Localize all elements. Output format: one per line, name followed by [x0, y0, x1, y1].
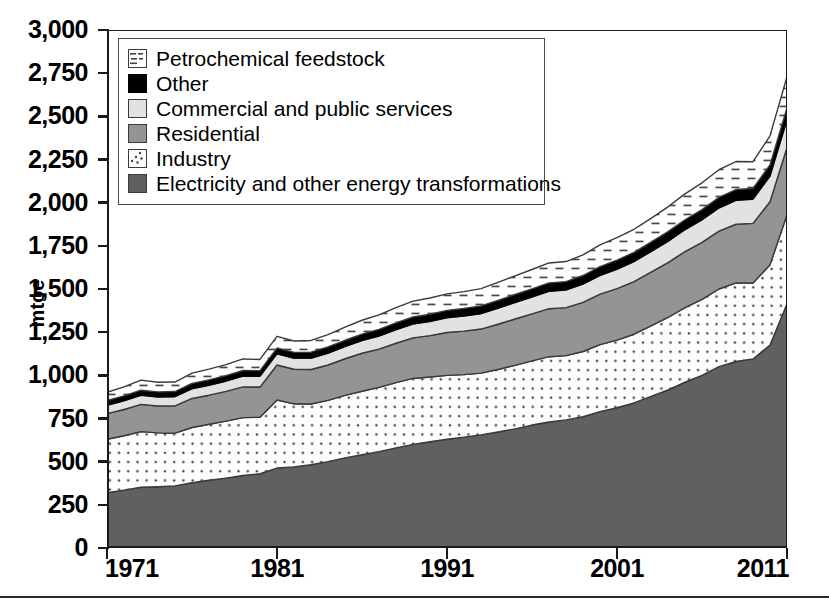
y-axis-tick: [98, 374, 109, 377]
petrochemical-feedstock-swatch-icon: [128, 49, 147, 68]
y-tick-label: 1,000: [0, 362, 88, 387]
y-tick-label: 1,500: [0, 276, 88, 301]
legend-item-petrochemical-feedstock[interactable]: Petrochemical feedstock: [128, 46, 536, 71]
chart-legend: Petrochemical feedstock Other Commercial…: [118, 38, 545, 205]
y-tick-label: 1,750: [0, 233, 88, 258]
legend-label: Electricity and other energy transformat…: [156, 173, 561, 194]
legend-item-industry[interactable]: Industry: [128, 146, 536, 171]
y-tick-label: 3,000: [0, 17, 88, 42]
y-tick-label: 500: [0, 449, 88, 474]
y-tick-label: 0: [0, 535, 88, 560]
y-axis-tick: [98, 288, 109, 291]
y-axis-tick: [98, 331, 109, 334]
y-tick-label: 2,000: [0, 190, 88, 215]
x-tick-label: 1971: [105, 556, 159, 581]
x-tick-label: 2011: [737, 556, 789, 581]
x-tick-label: 1981: [250, 556, 304, 581]
electricity-and-other-energy-transformations-swatch-icon: [128, 174, 147, 193]
residential-swatch-icon: [128, 124, 147, 143]
y-axis-tick: [98, 417, 109, 420]
y-tick-label: 2,500: [0, 103, 88, 128]
y-axis-tick: [98, 115, 109, 118]
x-axis-tick: [106, 548, 109, 559]
other-swatch-icon: [128, 74, 147, 93]
x-tick-label: 2001: [590, 556, 644, 581]
legend-item-other[interactable]: Other: [128, 71, 536, 96]
commercial-and-public-services-swatch-icon: [128, 99, 147, 118]
legend-item-commercial-and-public-services[interactable]: Commercial and public services: [128, 96, 536, 121]
y-axis-tick: [98, 72, 109, 75]
legend-label: Petrochemical feedstock: [156, 48, 385, 69]
x-axis-tick: [446, 548, 449, 559]
y-tick-label: 250: [0, 492, 88, 517]
legend-label: Residential: [156, 123, 260, 144]
legend-item-residential[interactable]: Residential: [128, 121, 536, 146]
y-axis-tick: [98, 460, 109, 463]
y-tick-label: 2,250: [0, 147, 88, 172]
y-axis-tick: [98, 245, 109, 248]
y-tick-label: 2,750: [0, 60, 88, 85]
legend-label: Industry: [156, 148, 231, 169]
x-axis-tick: [616, 548, 619, 559]
legend-item-electricity-and-other-energy-transformations[interactable]: Electricity and other energy transformat…: [128, 171, 536, 196]
x-axis-tick: [786, 548, 789, 559]
x-tick-label: 1991: [420, 556, 474, 581]
y-tick-label: 1,250: [0, 319, 88, 344]
footer-rule: [0, 596, 829, 598]
y-tick-label: 750: [0, 406, 88, 431]
legend-label: Commercial and public services: [156, 98, 452, 119]
y-axis-tick: [98, 29, 109, 32]
y-axis-tick: [98, 201, 109, 204]
chart-figure: mtoe 3,000 2,750 2,500 2,250 2,000 1,750…: [0, 0, 829, 616]
y-axis-tick: [98, 158, 109, 161]
x-axis-tick: [276, 548, 279, 559]
legend-label: Other: [156, 73, 209, 94]
y-axis-tick: [98, 504, 109, 507]
industry-swatch-icon: [128, 149, 147, 168]
